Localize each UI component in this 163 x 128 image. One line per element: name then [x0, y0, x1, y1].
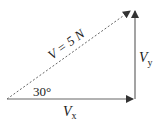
diagram-canvas: V = 5 N 30° Vx Vy [0, 0, 163, 128]
y-component-label: Vy [139, 50, 153, 68]
vector-diagram: V = 5 N 30° Vx Vy [0, 0, 163, 128]
resultant-vector-arrow [7, 11, 130, 99]
x-component-label: Vx [63, 104, 77, 121]
angle-label: 30° [33, 84, 51, 99]
